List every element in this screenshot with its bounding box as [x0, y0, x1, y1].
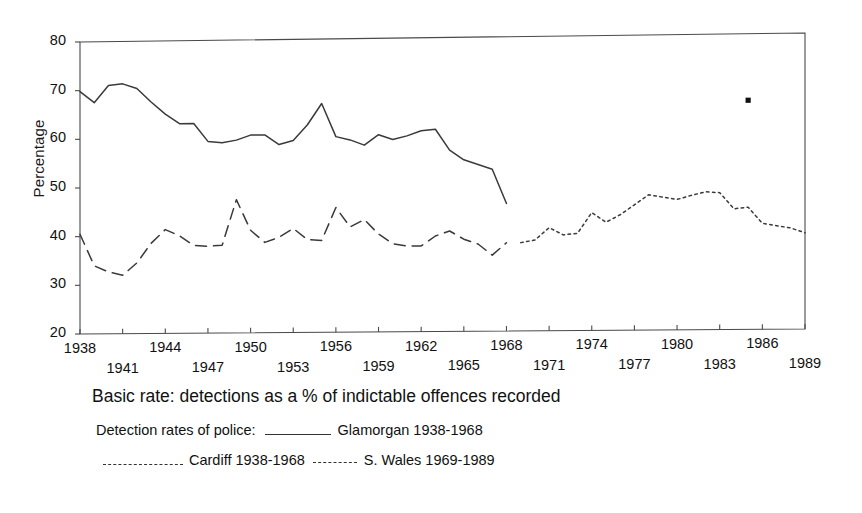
solid-line-swatch-icon: [265, 424, 331, 436]
x-tick-label: 1965: [438, 357, 490, 373]
y-tick-label: 60: [38, 129, 66, 145]
legend-label-glamorgan: Glamorgan 1938-1968: [338, 422, 483, 438]
x-tick-label: 1971: [523, 357, 575, 373]
y-tick-label: 20: [38, 324, 66, 340]
legend-row-primary: Detection rates of police: Glamorgan 193…: [96, 422, 483, 438]
legend-label-cardiff: Cardiff 1938-1968: [189, 452, 305, 468]
y-tick-label: 30: [38, 275, 66, 291]
series-line-1: [80, 84, 506, 204]
x-tick-label: 1959: [353, 358, 405, 374]
x-tick-label: 1941: [97, 360, 149, 376]
x-tick-label: 1986: [736, 335, 788, 351]
x-tick-label: 1947: [182, 359, 234, 375]
x-tick-label: 1953: [267, 359, 319, 375]
chart-caption: Basic rate: detections as a % of indicta…: [92, 386, 561, 407]
dotted-line-swatch-icon: [313, 454, 357, 466]
stray-square-mark: [746, 98, 751, 103]
dashed-line-swatch-icon: [103, 454, 183, 466]
y-tick-label: 40: [38, 227, 66, 243]
x-tick-label: 1950: [225, 339, 277, 355]
x-tick-label: 1980: [651, 336, 703, 352]
x-tick-label: 1983: [694, 356, 746, 372]
y-axis-label: Percentage: [30, 89, 47, 229]
x-tick-label: 1968: [480, 337, 532, 353]
y-tick-label: 50: [38, 178, 66, 194]
x-tick-label: 1974: [566, 336, 618, 352]
legend-label-swales: S. Wales 1969-1989: [364, 452, 495, 468]
legend-intro-label: Detection rates of police:: [96, 422, 256, 438]
series-line-2: [80, 200, 506, 276]
x-tick-label: 1944: [139, 339, 191, 355]
series-line-3: [521, 192, 805, 243]
x-tick-label: 1938: [54, 340, 106, 356]
x-tick-label: 1962: [395, 338, 447, 354]
y-tick-label: 70: [38, 81, 66, 97]
x-tick-label: 1977: [608, 356, 660, 372]
x-tick-label: 1989: [779, 355, 831, 371]
legend-row-secondary: Cardiff 1938-1968 S. Wales 1969-1989: [103, 452, 495, 468]
x-tick-label: 1956: [310, 338, 362, 354]
plot-frame: [80, 33, 805, 334]
chart-figure: Percentage 20304050607080 19381944195019…: [0, 0, 862, 513]
y-tick-label: 80: [38, 32, 66, 48]
